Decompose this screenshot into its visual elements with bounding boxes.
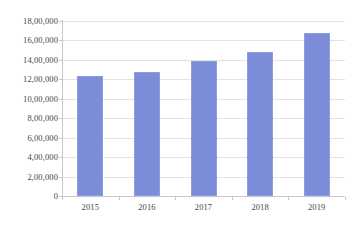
x-axis-tick-mark <box>62 197 63 200</box>
bar-series <box>62 21 345 196</box>
x-axis-tick-mark <box>345 197 346 200</box>
bar <box>77 76 103 196</box>
bar <box>304 33 330 196</box>
y-axis-tick-label: 18,00,000 <box>4 16 58 26</box>
x-axis-tick-mark <box>288 197 289 200</box>
x-axis-tick-mark <box>232 197 233 200</box>
y-axis-tick-labels: 02,00,0004,00,0006,00,0008,00,00010,00,0… <box>0 0 58 225</box>
x-axis-tick-label: 2015 <box>82 202 99 212</box>
y-axis-tick-label: 6,00,000 <box>4 133 58 143</box>
x-axis-tick-label: 2016 <box>138 202 155 212</box>
bar <box>247 52 273 196</box>
x-axis-tick-label: 2017 <box>195 202 212 212</box>
y-axis-tick-label: 2,00,000 <box>4 172 58 182</box>
y-axis-tick-label: 16,00,000 <box>4 35 58 45</box>
x-axis-tick-mark <box>175 197 176 200</box>
y-axis-tick-label: 8,00,000 <box>4 113 58 123</box>
x-axis-line <box>62 196 345 197</box>
y-axis-tick-label: 0 <box>4 191 58 201</box>
bar <box>191 61 217 196</box>
bar <box>134 72 160 196</box>
y-axis-tick-label: 14,00,000 <box>4 55 58 65</box>
y-axis-tick-label: 12,00,000 <box>4 74 58 84</box>
bar-chart: 02,00,0004,00,0006,00,0008,00,00010,00,0… <box>0 0 361 225</box>
x-axis-tick-mark <box>119 197 120 200</box>
x-axis-tick-label: 2019 <box>308 202 325 212</box>
y-axis-tick-label: 4,00,000 <box>4 152 58 162</box>
y-axis-tick-label: 10,00,000 <box>4 94 58 104</box>
x-axis-tick-label: 2018 <box>251 202 268 212</box>
